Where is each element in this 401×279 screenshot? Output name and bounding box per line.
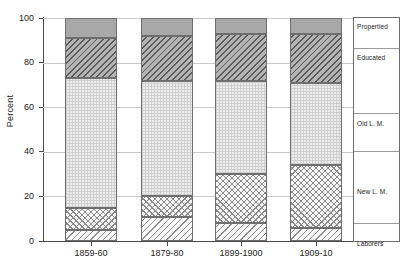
x-tick-mark (167, 242, 168, 246)
table-row[interactable] (141, 18, 193, 241)
bar-segment-laborers[interactable] (215, 223, 267, 241)
legend-divider (354, 223, 399, 224)
legend-label-laborers: Laborers (357, 240, 383, 247)
bar-segment-new-lm[interactable] (65, 208, 117, 230)
legend-label-new-lm: New L. M. (357, 188, 387, 195)
bar-segment-propertied[interactable] (141, 18, 193, 36)
bar-segment-new-lm[interactable] (215, 174, 267, 223)
x-tick-mark (241, 242, 242, 246)
legend-divider (354, 48, 399, 49)
x-tick-label-1879-80: 1879-80 (150, 248, 183, 258)
bar-segment-laborers[interactable] (65, 230, 117, 241)
bar-segment-new-lm[interactable] (290, 165, 342, 227)
bar-segment-new-lm[interactable] (141, 196, 193, 216)
y-tick-label-100: 100 (0, 13, 34, 23)
y-tick-label-40: 40 (0, 146, 34, 156)
bar-segment-educated[interactable] (65, 38, 117, 78)
bar-segment-educated[interactable] (290, 34, 342, 83)
y-tick-label-80: 80 (0, 57, 34, 67)
y-tick-label-0: 0 (0, 236, 34, 246)
bar-segment-laborers[interactable] (141, 217, 193, 242)
plot-area (43, 18, 353, 241)
x-tick-label-1909-10: 1909-10 (299, 248, 332, 258)
bar-segment-old-lm[interactable] (290, 83, 342, 166)
bar-segment-educated[interactable] (141, 36, 193, 81)
bar-segment-propertied[interactable] (215, 18, 267, 34)
x-tick-mark (316, 242, 317, 246)
x-tick-mark (91, 242, 92, 246)
bar-segment-old-lm[interactable] (141, 81, 193, 197)
y-tick-label-20: 20 (0, 191, 34, 201)
stacked-bar-chart: Percent 100 80 60 40 20 0 (0, 0, 401, 279)
legend: Propertied Educated Old L. M. New L. M. … (353, 17, 400, 242)
y-tick-mark (39, 241, 43, 242)
x-tick-label-1859-60: 1859-60 (74, 248, 107, 258)
y-tick-label-60: 60 (0, 102, 34, 112)
bar-segment-laborers[interactable] (290, 228, 342, 241)
bar-segment-propertied[interactable] (65, 18, 117, 38)
legend-divider (354, 113, 399, 114)
x-tick-label-1899-1900: 1899-1900 (219, 248, 262, 258)
bar-segment-educated[interactable] (215, 34, 267, 81)
table-row[interactable] (65, 18, 117, 241)
x-axis-line (43, 241, 354, 242)
legend-label-educated: Educated (357, 54, 385, 61)
table-row[interactable] (215, 18, 267, 241)
legend-divider (354, 151, 399, 152)
legend-label-old-lm: Old L. M. (357, 120, 384, 127)
bar-segment-old-lm[interactable] (65, 78, 117, 207)
bar-segment-propertied[interactable] (290, 18, 342, 34)
table-row[interactable] (290, 18, 342, 241)
bar-segment-old-lm[interactable] (215, 81, 267, 175)
legend-label-propertied: Propertied (357, 23, 388, 30)
